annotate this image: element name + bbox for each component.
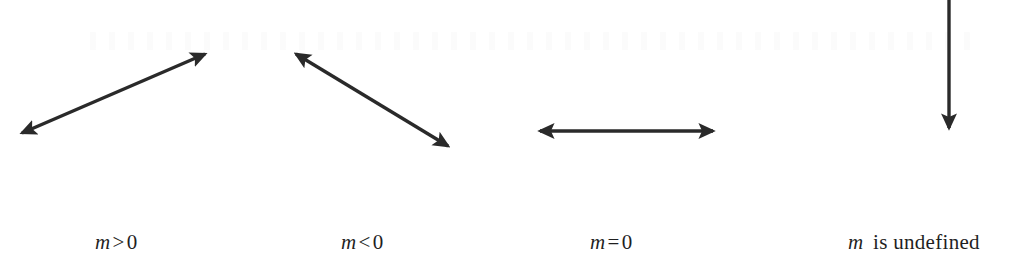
slope-operator-1: >	[110, 230, 126, 254]
slope-value-3: 0	[622, 230, 633, 254]
label-negative-slope: m<0	[341, 232, 383, 253]
slope-variable-3: m	[590, 230, 605, 254]
slope-value-2: 0	[373, 230, 384, 254]
slope-operator-4	[863, 230, 867, 254]
label-zero-slope: m=0	[590, 232, 632, 253]
slope-variable-4: m	[848, 230, 863, 254]
slope-operator-2: <	[356, 230, 372, 254]
slope-value-4: is undefined	[873, 230, 980, 254]
slope-value-1: 0	[127, 230, 138, 254]
arrow-positive-slope	[22, 54, 205, 133]
arrow-negative-slope	[296, 54, 448, 146]
slope-diagram: m>0 m<0 m=0 m is undefined	[0, 0, 1030, 280]
label-undefined-slope: m is undefined	[848, 232, 980, 253]
label-positive-slope: m>0	[95, 232, 137, 253]
slope-variable-2: m	[341, 230, 356, 254]
slope-operator-3: =	[605, 230, 621, 254]
slope-variable-1: m	[95, 230, 110, 254]
